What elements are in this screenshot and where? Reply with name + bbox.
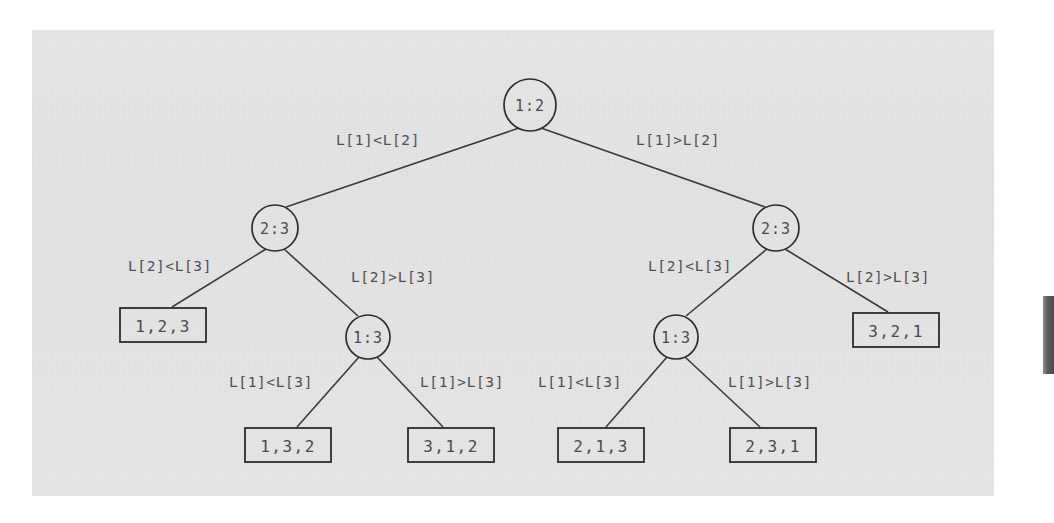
tree-edge-e-l13-left: [297, 357, 359, 427]
comparison-node-label: 1:3: [661, 329, 691, 347]
edge-condition-label-lbl-r-right: L[2]>L[3]: [846, 269, 930, 285]
scan-edge-artifact: [1043, 296, 1054, 374]
comparison-node-label: 1:3: [353, 329, 383, 347]
edge-condition-label-lbl-root-left: L[1]<L[2]: [336, 132, 420, 148]
leaf-label: 2,3,1: [745, 437, 801, 456]
leaf-label: 3,1,2: [423, 437, 479, 456]
tree-edge-e-r13-left: [606, 357, 667, 427]
comparison-node-label: 1:2: [515, 97, 545, 115]
leaf-label: 1,2,3: [135, 317, 191, 336]
edge-condition-label-lbl-l13-right: L[1]>L[3]: [420, 374, 504, 390]
tree-edge-e-l13-right: [377, 357, 443, 427]
tree-edge-e-l-right: [284, 249, 358, 316]
edge-condition-label-lbl-root-right: L[1]>L[2]: [636, 132, 720, 148]
leaf-label: 1,3,2: [260, 437, 316, 456]
edge-condition-label-lbl-r13-right: L[1]>L[3]: [728, 374, 812, 390]
tree-edge-e-r13-right: [685, 357, 760, 427]
edge-condition-label-lbl-r13-left: L[1]<L[3]: [538, 374, 622, 390]
page-root: 1:22:32:31:31:31,2,31,3,23,1,22,1,32,3,1…: [0, 0, 1054, 523]
leaf-label: 3,2,1: [868, 322, 924, 341]
edge-condition-label-lbl-l-right: L[2]>L[3]: [351, 269, 435, 285]
edge-condition-label-lbl-r-left: L[2]<L[3]: [648, 258, 732, 274]
comparison-node-label: 2:3: [761, 220, 791, 238]
leaf-label: 2,1,3: [573, 437, 629, 456]
edge-condition-label-lbl-l13-left: L[1]<L[3]: [229, 374, 313, 390]
edge-condition-label-lbl-l-left: L[2]<L[3]: [128, 258, 212, 274]
tree-nodes-group: [252, 79, 799, 359]
comparison-node-label: 2:3: [260, 220, 290, 238]
